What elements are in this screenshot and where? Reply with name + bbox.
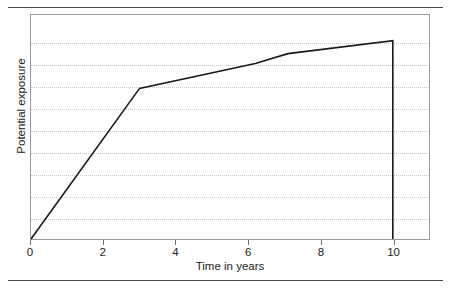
series-layer <box>31 15 429 239</box>
x-axis-tick-label: 10 <box>387 245 400 259</box>
y-axis-title: Potential exposure <box>14 41 28 171</box>
exposure-line <box>31 41 393 239</box>
x-axis-tick-label: 2 <box>100 245 106 259</box>
x-axis-tick-label: 4 <box>172 245 178 259</box>
x-axis-tick-label: 8 <box>318 245 324 259</box>
plot-area <box>30 14 430 240</box>
bottom-horizontal-rule <box>8 280 443 281</box>
top-horizontal-rule <box>8 7 443 8</box>
x-axis-tick-label: 6 <box>245 245 251 259</box>
chart-figure: 0246810 Time in years Potential exposure <box>0 0 451 288</box>
x-axis-title: Time in years <box>30 259 430 273</box>
x-axis-tick-label: 0 <box>27 245 33 259</box>
